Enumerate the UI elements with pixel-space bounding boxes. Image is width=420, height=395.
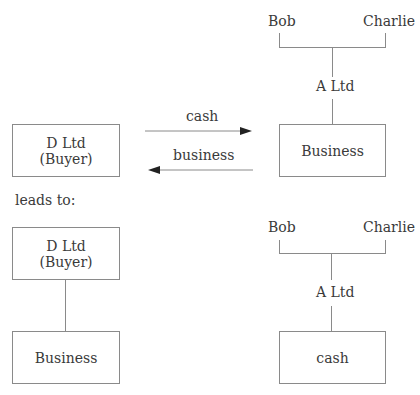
buyer-role: (Buyer): [39, 254, 92, 270]
shareholder-charlie-before: Charlie: [363, 13, 415, 29]
connector: [332, 99, 333, 124]
bracket-right: [385, 33, 386, 48]
business-label: Business: [35, 350, 98, 366]
cash-label: cash: [316, 350, 348, 366]
business-box-after: Business: [12, 331, 120, 384]
connector: [65, 280, 66, 332]
connector: [331, 253, 332, 280]
buyer-box-after: D Ltd (Buyer): [12, 227, 120, 280]
buyer-name: D Ltd: [46, 238, 86, 254]
connector: [332, 47, 333, 77]
bracket-bar: [279, 253, 386, 254]
company-label-before: A Ltd: [316, 78, 354, 94]
transition-label: leads to:: [15, 192, 75, 208]
bracket-left: [279, 240, 280, 254]
bracket-left: [279, 33, 280, 48]
shareholder-charlie-after: Charlie: [363, 219, 415, 235]
business-box-before: Business: [279, 124, 386, 177]
shareholder-bob-after: Bob: [268, 219, 296, 235]
business-label: Business: [301, 143, 364, 159]
cash-box-after: cash: [279, 331, 386, 384]
shareholder-bob-before: Bob: [268, 13, 296, 29]
connector: [331, 306, 332, 331]
company-label-after: A Ltd: [316, 284, 354, 300]
bracket-right: [385, 240, 386, 254]
